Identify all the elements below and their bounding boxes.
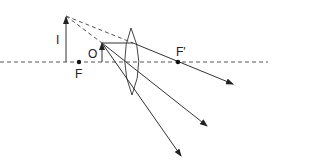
ray-diagram: I O F F' — [0, 0, 313, 164]
focus-right-label: F' — [176, 45, 186, 59]
focus-left-point — [77, 60, 81, 64]
object-label: O — [88, 47, 97, 61]
ray-through-center — [102, 43, 207, 126]
ray-lower — [102, 43, 181, 156]
focus-left-label: F — [75, 67, 82, 81]
virtual-ray-2 — [66, 16, 102, 43]
image-label: I — [56, 33, 59, 47]
virtual-ray-1 — [66, 16, 133, 43]
focus-right-point — [176, 60, 180, 64]
